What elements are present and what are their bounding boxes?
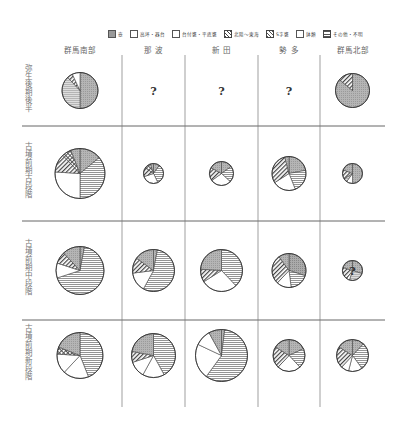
pie-cell-r2-c0 <box>56 247 104 295</box>
pie-cell-r1-c0 <box>55 149 105 199</box>
pie-cell-r0-c1: ? <box>150 85 156 98</box>
unknown-mark: ? <box>349 265 355 278</box>
pie-cell-r2-c4: ? <box>343 261 363 281</box>
pie-cell-r0-c0 <box>62 73 98 109</box>
pie-cell-r1-c2 <box>210 162 234 186</box>
pie-cell-r0-c2: ? <box>218 85 224 98</box>
pie-cell-r3-c2 <box>196 330 248 382</box>
pie-cell-r3-c4 <box>337 340 369 372</box>
pie-cell-r2-c1 <box>133 250 175 292</box>
pie-cell-r1-c4 <box>343 164 363 184</box>
pie-slice-tsubo <box>80 73 98 109</box>
unknown-mark: ? <box>286 85 292 98</box>
unknown-mark: ? <box>150 85 156 98</box>
pie-cell-r0-c4 <box>336 74 370 108</box>
pie-cell-r3-c1 <box>132 334 176 378</box>
pie-slice-tsubo <box>353 164 363 184</box>
pie-cell-r1-c3 <box>272 156 306 190</box>
pie-cell-r3-c3 <box>273 340 305 372</box>
pie-chart-figure: 壺高坏・器台台付甕・平底甕北陸〜東海S字甕鉢類その他・不明 群馬南部那 波新 田… <box>0 0 404 428</box>
pie-cell-r2-c2 <box>201 250 243 292</box>
pie-slice-empty <box>55 172 80 199</box>
pie-grid: ???? <box>0 0 404 428</box>
unknown-mark: ? <box>218 85 224 98</box>
pie-cell-r1-c1 <box>144 164 164 184</box>
pie-cell-r2-c3 <box>272 254 306 288</box>
pie-cell-r3-c0 <box>57 333 103 379</box>
pie-cell-r0-c3: ? <box>286 85 292 98</box>
